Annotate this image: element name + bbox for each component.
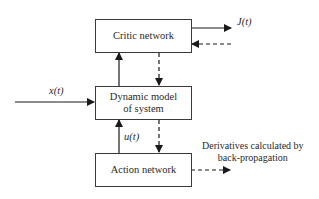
action-network-label: Action network xyxy=(111,164,177,176)
control-label: u(t) xyxy=(124,131,139,142)
derivatives-note-line2: back-propagation xyxy=(202,152,304,164)
critic-network-label: Critic network xyxy=(113,30,174,42)
input-label: x(t) xyxy=(49,85,64,96)
dynamic-model-label-line2: of system xyxy=(123,103,164,115)
derivatives-note-line1: Derivatives calculated by xyxy=(202,140,304,152)
critic-network-box: Critic network xyxy=(95,19,192,53)
derivatives-note: Derivatives calculated by back-propagati… xyxy=(202,140,304,164)
action-network-box: Action network xyxy=(95,153,192,187)
output-label: J(t) xyxy=(237,16,252,27)
dynamic-model-label-line1: Dynamic model xyxy=(110,91,177,103)
dynamic-model-box: Dynamic model of system xyxy=(95,86,192,120)
